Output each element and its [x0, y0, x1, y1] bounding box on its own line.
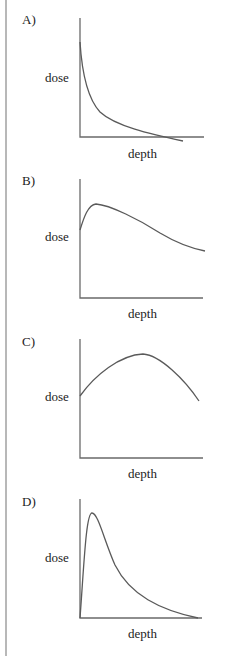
- panel-c: C) dose depth: [0, 325, 230, 486]
- x-axis-label: depth: [128, 626, 157, 642]
- dose-depth-plot: [0, 4, 230, 165]
- panel-d: D) dose depth: [0, 485, 230, 646]
- axes: [80, 179, 203, 298]
- dose-depth-plot: [0, 325, 230, 486]
- axes: [80, 499, 202, 618]
- dose-depth-plot: [0, 485, 230, 646]
- x-axis-label: depth: [128, 146, 157, 162]
- dose-curve: [80, 204, 205, 251]
- panel-a: A) dose depth: [0, 4, 230, 165]
- x-axis-label: depth: [128, 466, 157, 482]
- x-axis-label: depth: [128, 306, 157, 322]
- axes: [80, 18, 204, 137]
- dose-curve: [80, 354, 199, 401]
- panel-b: B) dose depth: [0, 165, 230, 326]
- axes: [80, 339, 203, 458]
- dose-depth-plot: [0, 165, 230, 326]
- dose-curve: [80, 42, 183, 141]
- dose-curve: [80, 513, 198, 618]
